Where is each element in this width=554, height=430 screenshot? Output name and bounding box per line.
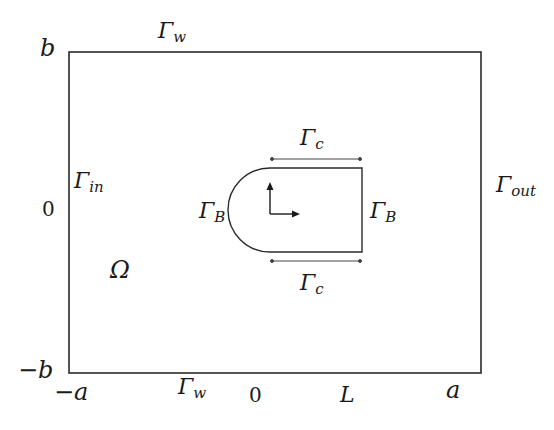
y-tick-b: b — [40, 34, 55, 62]
y-tick-zero: 0 — [42, 197, 55, 221]
x-tick-l: L — [339, 382, 355, 407]
label-gamma-b-right: ΓB — [369, 198, 396, 226]
y-tick-minus-b: −b — [18, 356, 53, 384]
x-tick-zero: 0 — [249, 383, 262, 407]
label-omega: Ω — [109, 256, 130, 284]
label-gamma-b-left: ΓB — [198, 198, 225, 226]
coordinate-axes-icon — [267, 182, 301, 218]
label-gamma-in: Γin — [73, 168, 104, 196]
gamma-c-top-span — [271, 158, 362, 161]
gamma-c-bottom-span — [271, 260, 362, 263]
label-gamma-w-top: Γw — [157, 18, 186, 46]
label-gamma-c-top: Γc — [299, 125, 324, 153]
label-gamma-out: Γout — [495, 172, 537, 200]
domain-diagram: Γw Γw Γin Γout ΓB ΓB Γc Γc Ω b 0 −b −a 0… — [0, 0, 554, 430]
outer-domain-boundary — [69, 52, 481, 373]
x-tick-minus-a: −a — [54, 378, 88, 406]
inner-body-boundary — [228, 168, 362, 252]
label-gamma-w-bottom: Γw — [177, 374, 206, 402]
label-gamma-c-bottom: Γc — [299, 270, 324, 298]
x-tick-a: a — [446, 376, 460, 404]
